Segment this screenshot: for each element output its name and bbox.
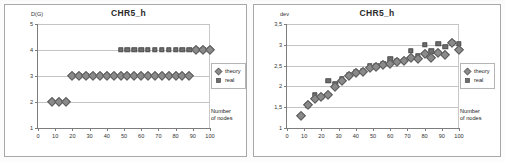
x-tick-label: 70	[150, 133, 166, 139]
y-tick-mark	[35, 102, 38, 103]
x-tick-mark	[72, 128, 73, 131]
data-point-real	[159, 47, 164, 52]
chart-right-xaxis-title-line2: of nodes	[460, 115, 502, 122]
chart-right[interactable]: CHR5_h dev 11,522,533,501020304050607080…	[253, 4, 501, 157]
x-tick-mark	[321, 128, 322, 131]
gridline	[287, 86, 459, 87]
chart-right-xaxis-title: Number of nodes	[460, 108, 502, 122]
data-point-real	[326, 78, 331, 83]
data-point-real	[422, 42, 427, 47]
chart-right-yaxis-title: dev	[280, 11, 289, 17]
x-tick-mark	[158, 128, 159, 131]
data-point-real	[132, 47, 137, 52]
x-tick-mark	[425, 128, 426, 131]
y-tick-label: 4	[13, 47, 33, 53]
data-point-theory	[296, 110, 306, 120]
x-tick-label: 30	[82, 133, 98, 139]
x-tick-label: 10	[47, 133, 63, 139]
legend-label-real: real	[474, 76, 483, 85]
x-tick-label: 60	[382, 133, 398, 139]
legend-item-theory[interactable]: theory	[464, 67, 490, 76]
screenshot-root: CHR5_h D(G) 123450102030405060708090100 …	[0, 0, 505, 162]
gridline	[38, 24, 210, 25]
x-tick-mark	[459, 128, 460, 131]
diamond-marker-icon	[464, 68, 472, 76]
y-tick-mark	[284, 66, 287, 67]
gridline	[287, 24, 459, 25]
y-tick-label: 5	[13, 21, 33, 27]
x-tick-mark	[193, 128, 194, 131]
chart-left-xaxis-title: Number of nodes	[211, 108, 253, 122]
square-marker-icon	[216, 78, 220, 82]
gridline	[287, 45, 459, 46]
data-point-real	[138, 47, 143, 52]
x-tick-label: 0	[279, 133, 295, 139]
data-point-real	[166, 47, 171, 52]
y-tick-mark	[35, 76, 38, 77]
x-tick-mark	[55, 128, 56, 131]
data-point-real	[443, 44, 448, 49]
x-tick-label: 70	[399, 133, 415, 139]
chart-left-legend: theory real	[211, 63, 246, 89]
x-tick-mark	[176, 128, 177, 131]
chart-left-xaxis-title-line2: of nodes	[211, 115, 253, 122]
data-point-real	[125, 47, 130, 52]
x-tick-label: 20	[313, 133, 329, 139]
y-tick-mark	[284, 24, 287, 25]
x-tick-label: 100	[202, 133, 218, 139]
y-tick-label: 1,5	[262, 104, 282, 110]
data-point-real	[152, 47, 157, 52]
chart-right-plot-area: 11,522,533,50102030405060708090100	[286, 24, 459, 129]
y-tick-mark	[284, 45, 287, 46]
y-tick-label: 3	[13, 73, 33, 79]
chart-left-plot-area: 123450102030405060708090100	[37, 24, 210, 129]
x-tick-label: 20	[64, 133, 80, 139]
data-point-real	[173, 47, 178, 52]
x-tick-mark	[304, 128, 305, 131]
data-point-theory	[454, 45, 464, 55]
x-tick-label: 10	[296, 133, 312, 139]
x-tick-mark	[442, 128, 443, 131]
legend-label-theory: theory	[225, 67, 241, 76]
data-point-real	[180, 47, 185, 52]
x-tick-mark	[287, 128, 288, 131]
y-tick-mark	[35, 50, 38, 51]
x-tick-mark	[373, 128, 374, 131]
y-tick-label: 1	[13, 125, 33, 131]
legend-item-theory[interactable]: theory	[215, 67, 241, 76]
chart-right-xaxis-title-line1: Number	[460, 108, 502, 115]
x-tick-mark	[90, 128, 91, 131]
x-tick-label: 80	[417, 133, 433, 139]
x-tick-mark	[356, 128, 357, 131]
x-tick-label: 60	[133, 133, 149, 139]
chart-left[interactable]: CHR5_h D(G) 123450102030405060708090100 …	[4, 4, 247, 157]
diamond-marker-icon	[215, 68, 223, 76]
x-tick-label: 90	[434, 133, 450, 139]
x-tick-label: 50	[365, 133, 381, 139]
legend-item-real[interactable]: real	[464, 76, 490, 85]
x-tick-label: 80	[168, 133, 184, 139]
x-tick-mark	[339, 128, 340, 131]
chart-right-legend: theory real	[460, 63, 495, 89]
chart-right-title: CHR5_h	[254, 8, 500, 18]
gridline	[287, 107, 459, 108]
legend-item-real[interactable]: real	[215, 76, 241, 85]
y-tick-label: 3,5	[262, 21, 282, 27]
data-point-theory	[184, 71, 194, 81]
x-tick-mark	[38, 128, 39, 131]
y-tick-label: 2,5	[262, 63, 282, 69]
data-point-theory	[60, 97, 70, 107]
chart-left-yaxis-title: D(G)	[31, 11, 43, 17]
y-tick-label: 2	[13, 99, 33, 105]
data-point-theory	[205, 45, 215, 55]
x-tick-label: 40	[99, 133, 115, 139]
x-tick-label: 30	[331, 133, 347, 139]
y-tick-mark	[284, 107, 287, 108]
y-tick-label: 3	[262, 42, 282, 48]
x-tick-mark	[141, 128, 142, 131]
legend-label-theory: theory	[474, 67, 490, 76]
data-point-real	[436, 41, 441, 46]
x-tick-label: 100	[451, 133, 467, 139]
y-tick-label: 2	[262, 83, 282, 89]
x-tick-mark	[407, 128, 408, 131]
